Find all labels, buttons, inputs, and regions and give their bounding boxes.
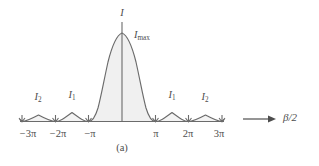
lobe-subscript: 2 xyxy=(205,96,209,104)
lobe-symbol: I xyxy=(68,89,72,100)
diffraction-figure: I Imax I2 I1 I1 I2 −3π −2π −π π 2π 3π β/… xyxy=(0,0,319,166)
peak-intensity-label: Imax xyxy=(134,30,150,41)
figure-caption: (a) xyxy=(116,143,128,154)
lobe-subscript: 1 xyxy=(72,94,76,102)
tick-label-minus-3pi: −3π xyxy=(20,129,36,140)
right-arrow-icon xyxy=(243,116,276,123)
intensity-plot-svg xyxy=(0,0,319,166)
tick-label-2pi: 2π xyxy=(183,129,194,140)
secondary-maximum-label-left-2: I2 xyxy=(34,92,41,103)
tick-label-3pi: 3π xyxy=(214,129,225,140)
tick-label-pi: π xyxy=(153,129,158,140)
lobe-subscript: 2 xyxy=(38,96,42,104)
lobe-symbol: I xyxy=(201,91,205,102)
lobe-symbol: I xyxy=(34,91,38,102)
y-axis-label: I xyxy=(120,8,124,19)
secondary-maximum-label-left-1: I1 xyxy=(68,90,75,101)
secondary-maximum-label-right-2: I2 xyxy=(201,92,208,103)
x-axis-variable-label: β/2 xyxy=(283,112,297,123)
secondary-maximum-label-right-1: I1 xyxy=(168,90,175,101)
lobe-symbol: I xyxy=(168,89,172,100)
peak-intensity-subscript: max xyxy=(138,34,150,42)
lobe-subscript: 1 xyxy=(172,94,176,102)
tick-label-minus-pi: −π xyxy=(84,129,95,140)
tick-label-minus-2pi: −2π xyxy=(50,129,66,140)
peak-intensity-symbol: I xyxy=(134,29,138,40)
